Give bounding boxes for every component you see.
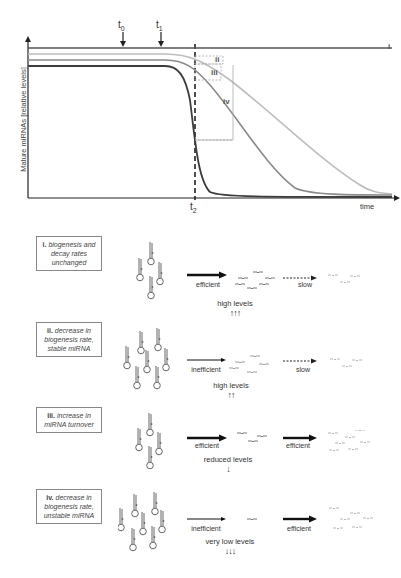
scenario-iv-box: iv. decrease in biogenesis rate, unstabl…: [36, 489, 102, 524]
flow-in-label-i: efficient: [188, 281, 228, 288]
precursor-hairpins-ii: [120, 328, 180, 403]
t0-label: t0: [118, 19, 125, 32]
level-arrows-iii: ↓: [193, 465, 263, 474]
level-arrows-i: ↑↑↑: [200, 309, 270, 318]
curve-ii: [28, 54, 392, 194]
level-label-iv: very low levels: [195, 537, 265, 546]
level-label-iii: reduced levels: [193, 455, 263, 464]
label-i: i: [388, 42, 390, 51]
x-axis-label: time: [360, 202, 374, 211]
chart-plot: [0, 0, 401, 220]
scenario-ii-box: ii. decrease in biogenesis rate, stable …: [36, 322, 102, 357]
scenario-iii-box: iii. increase in miRNA turnover: [36, 407, 102, 433]
t2-label: t2: [190, 201, 197, 214]
x-axis-arrow-icon: [394, 195, 400, 201]
flow-in-label-ii: inefficient: [184, 366, 228, 373]
label-iii: iii: [211, 68, 218, 77]
arrow-efficient-icon: [309, 516, 317, 523]
flow-out-label-i: slow: [285, 281, 325, 288]
scenario-i-box: i. biogenesis and decay rates unchanged: [36, 236, 102, 271]
level-arrows-iv: ↓↓↓: [195, 547, 265, 556]
flow-in-label-iv: inefficient: [184, 525, 228, 532]
precursor-hairpins-iii: [125, 410, 175, 485]
arrow-slow-icon: [311, 276, 317, 281]
t1-label: t1: [156, 19, 163, 32]
t1-arrow-icon: [158, 41, 164, 47]
flow-out-label-iii: efficient: [277, 442, 319, 449]
label-ii: ii: [215, 55, 219, 64]
arrow-inefficient-icon: [221, 358, 226, 362]
arrow-slow-icon: [311, 359, 317, 364]
flow-out-label-ii: slow: [283, 366, 323, 373]
arrow-efficient-icon: [219, 435, 227, 442]
arrow-inefficient-icon: [221, 517, 226, 521]
level-label-ii: high levels: [196, 381, 266, 390]
flow-in-label-iii: efficient: [187, 442, 227, 449]
level-label-i: high levels: [200, 299, 270, 308]
label-iv: iv: [223, 97, 230, 106]
precursor-hairpins-iv: [118, 492, 178, 567]
t0-arrow-icon: [120, 41, 126, 47]
y-axis-label: Mature miRNAs [relative levels]: [19, 45, 28, 195]
y-axis-arrow-icon: [25, 36, 31, 42]
flow-out-label-iv: efficient: [279, 525, 319, 532]
arrow-efficient-icon: [219, 272, 227, 279]
arrow-efficient-icon: [309, 435, 317, 442]
precursor-hairpins-i: [125, 240, 175, 315]
level-arrows-ii: ↑↑: [196, 391, 266, 400]
